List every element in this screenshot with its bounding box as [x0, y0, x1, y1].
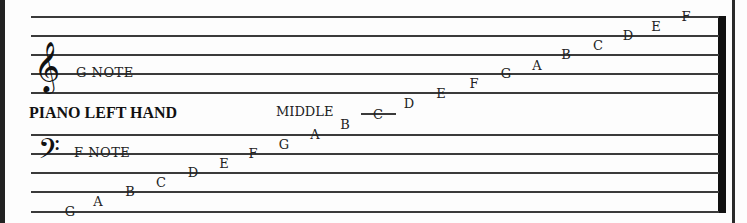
middle-c-note: C	[373, 108, 383, 121]
staff-line	[31, 153, 719, 155]
note-label: A	[310, 128, 319, 141]
note-label: A	[532, 59, 541, 72]
note-label: B	[561, 48, 571, 61]
music-staff-diagram: 𝄞 G NOTE PIANO LEFT HAND 𝄢 F NOTE MIDDLE…	[0, 0, 747, 223]
note-label: E	[219, 157, 229, 170]
note-label: F	[469, 77, 478, 90]
staff-line	[31, 134, 719, 136]
note-label: A	[93, 195, 102, 208]
note-label: B	[125, 185, 135, 198]
note-label: G	[65, 205, 75, 218]
staff-line	[31, 211, 719, 213]
staff-line	[31, 35, 719, 37]
staff-line	[31, 92, 719, 94]
staff-line	[31, 16, 719, 18]
right-border	[732, 0, 735, 223]
note-label: G	[501, 67, 511, 80]
staff-line	[31, 172, 719, 174]
note-label: D	[404, 97, 414, 110]
left-border	[0, 0, 5, 223]
f-note-label: F NOTE	[74, 146, 130, 160]
note-label: G	[279, 138, 289, 151]
treble-clef-icon: 𝄞	[34, 44, 60, 88]
note-label: C	[593, 39, 603, 52]
staff-line	[31, 54, 719, 56]
g-note-label: G NOTE	[76, 66, 134, 80]
note-label: B	[340, 118, 350, 131]
bass-clef-icon: 𝄢	[38, 135, 60, 169]
note-label: E	[436, 87, 446, 100]
diagram-title: PIANO LEFT HAND	[29, 104, 177, 122]
staff-line	[31, 73, 719, 75]
note-label: F	[248, 147, 257, 160]
note-label: D	[623, 29, 633, 42]
note-label: C	[156, 176, 166, 189]
note-label: D	[188, 166, 198, 179]
final-barline	[718, 16, 726, 213]
middle-label: MIDDLE	[276, 105, 333, 119]
note-label: F	[681, 10, 690, 23]
note-label: E	[651, 20, 661, 33]
